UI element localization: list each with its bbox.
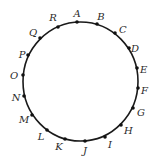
point-dot [113,31,117,35]
point-dot [95,22,99,26]
points-group: ABCDEFGHIJKLMNOPQR [10,8,149,156]
point-dot [21,73,25,77]
point-label: P [18,49,26,60]
point-label: L [37,131,45,142]
point-l: L [37,128,49,142]
point-label: B [96,11,104,22]
point-label: K [54,141,63,152]
point-dot [83,139,87,143]
point-dot [26,53,30,57]
point-b: B [95,11,104,26]
point-dot [63,137,67,141]
point-label: M [18,114,30,125]
point-dot [136,86,140,90]
point-c: C [113,24,127,35]
point-label: E [139,64,148,75]
point-dot [135,66,139,70]
point-label: G [137,107,145,118]
point-label: D [130,43,139,54]
point-label: J [81,145,88,156]
point-dot [38,36,42,40]
point-label: C [119,24,127,35]
point-dot [131,106,135,110]
point-label: H [123,125,133,136]
point-m: M [18,113,34,125]
point-g: G [131,106,145,118]
point-dot [103,135,107,139]
point-label: F [140,85,149,96]
point-label: Q [29,27,37,38]
circle-diagram: ABCDEFGHIJKLMNOPQR [0,0,154,159]
point-dot [30,113,34,117]
point-dot [56,25,60,29]
point-dot [75,20,79,24]
point-label: A [72,8,80,19]
point-label: N [11,92,22,103]
point-dot [119,123,123,127]
point-i: I [103,135,113,150]
circle [23,22,138,141]
point-k: K [54,137,67,152]
point-r: R [48,12,60,29]
point-q: Q [29,27,42,40]
point-h: H [119,123,133,136]
point-dot [22,94,26,98]
point-label: R [48,12,57,23]
point-d: D [127,43,139,54]
point-label: O [10,70,18,81]
point-dot [45,128,49,132]
point-label: I [107,139,113,150]
